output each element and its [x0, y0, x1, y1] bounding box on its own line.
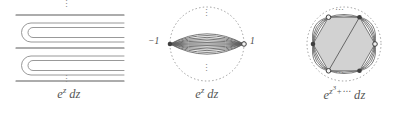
hexagon-vertex-lower-right: [357, 69, 362, 74]
hexagon-vertex-left: [311, 42, 316, 47]
panel-1-ellipsis-bottom: ⋮: [62, 75, 71, 84]
panel-2-artwork: ⋮ ⋮ −1 1: [138, 2, 276, 86]
panel-1-caption: ezdz: [0, 88, 138, 101]
hairpin-lower-outer: [22, 56, 125, 75]
panel-hexagon-thimble-bundle: ⋯ ⋯ ez3+⋯dz: [276, 0, 413, 119]
panel-3-caption: ez3+⋯dz: [276, 88, 413, 101]
panel-2-ellipsis-top: ⋮: [202, 9, 211, 18]
panel-2-left-endpoint-label: −1: [148, 36, 159, 46]
hexagon-vertex-upper-right: [357, 15, 362, 20]
panel-3-ellipsis-top: ⋯: [335, 5, 345, 15]
hairpin-upper-outer: [22, 23, 125, 42]
panel-3-artwork: ⋯ ⋯: [276, 2, 413, 86]
panel-1-artwork: ⋮ ⋮: [0, 2, 138, 86]
panel-1-ellipsis-top: ⋮: [62, 0, 71, 9]
panel-2-caption-exponent: z: [201, 85, 205, 95]
hexagon-vertex-lower-left: [326, 69, 331, 74]
panel-2-caption: ezdz: [138, 88, 276, 101]
panel-parallel-hairpin-contours: ⋮ ⋮ ezdz: [0, 0, 138, 119]
hexagon-thimble-bundle-svg: [276, 2, 413, 86]
hexagon-vertex-right: [373, 42, 378, 47]
panel-3-caption-differential: dz: [354, 88, 366, 102]
hexagon-vertex-upper-left: [326, 15, 331, 20]
panel-2-caption-differential: dz: [207, 87, 219, 101]
panel-3-caption-exponent-tail: +⋯: [336, 86, 351, 96]
panel-3-ellipsis-bottom: ⋯: [335, 68, 345, 78]
panel-1-caption-differential: dz: [69, 87, 81, 101]
critical-point-left: [168, 42, 173, 47]
hairpin-upper-inner: [28, 28, 124, 38]
panel-2-ellipsis-bottom: ⋮: [202, 64, 211, 73]
contour-lines-group: [16, 15, 124, 81]
panel-3-caption-exponent: z3+⋯: [329, 86, 351, 96]
hairpin-lower-inner: [28, 61, 124, 71]
lens-arcs-group: [170, 34, 244, 55]
panel-lens-thimble-bundle: ⋮ ⋮ −1 1 ezdz: [138, 0, 276, 119]
panel-1-caption-exponent: z: [63, 85, 67, 95]
hairpin-contours-group: [22, 23, 125, 75]
panel-2-right-endpoint-label: 1: [250, 36, 255, 46]
figure-three-contour-panels: ⋮ ⋮ ezdz: [0, 0, 413, 119]
critical-point-right: [242, 42, 247, 47]
